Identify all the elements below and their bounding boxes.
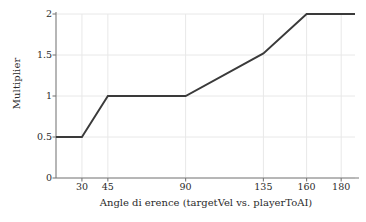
y-tick-label: 0 bbox=[12, 173, 52, 183]
y-axis-title: Multiplier bbox=[11, 47, 22, 121]
tick-marks bbox=[53, 14, 342, 182]
chart-figure: 00.511.52 Multiplier Angle di erence (ta… bbox=[0, 0, 366, 222]
x-axis-title: Angle di erence (targetVel vs. playerToA… bbox=[56, 197, 356, 208]
axis-lines bbox=[56, 12, 359, 178]
x-tick-label: 45 bbox=[88, 181, 128, 192]
y-tick-label: 2 bbox=[12, 9, 52, 19]
data-series-line bbox=[56, 14, 355, 137]
x-tick-label: 90 bbox=[166, 181, 206, 192]
y-tick-label: 0.5 bbox=[12, 132, 52, 142]
x-tick-label: 180 bbox=[321, 181, 361, 192]
x-tick-label: 135 bbox=[243, 181, 283, 192]
gridlines bbox=[56, 14, 355, 178]
